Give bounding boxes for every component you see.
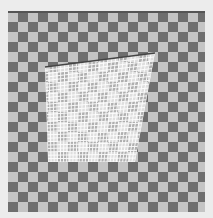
warped-grid-overlay bbox=[0, 0, 213, 218]
